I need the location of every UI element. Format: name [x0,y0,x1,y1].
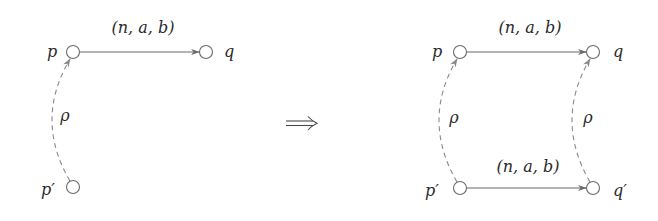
left-rho-label: ρ [59,106,70,125]
right-node-p [454,46,467,59]
right-rho-left-label: ρ [448,108,459,127]
left-node-q [200,46,213,59]
left-node-p-prime [67,181,80,194]
right-label-q-prime: q′ [613,181,627,200]
right-node-q [587,46,600,59]
left-label-p: p [47,42,57,61]
left-edge-label-nab: (n, a, b) [112,18,175,37]
right-label-q: q [613,42,623,61]
left-label-p-prime: p′ [41,180,55,199]
left-node-p [67,46,80,59]
right-edge-label-nab-top: (n, a, b) [499,18,562,37]
right-rho-right-label: ρ [582,108,593,127]
right-edge-label-nab-bottom: (n, a, b) [497,157,560,176]
right-node-q-prime [587,182,600,195]
right-label-p-prime: p′ [425,181,439,200]
right-node-p-prime [454,182,467,195]
right-diagram: (n, a, b) (n, a, b) ρ ρ p q p′ q′ [425,18,627,200]
left-diagram: (n, a, b) ρ p q p′ [41,18,234,199]
diagram-canvas: (n, a, b) ρ p q p′ (n, a, b) (n, a, b) ρ… [0,0,658,221]
implies-arrow-icon [286,117,317,131]
left-label-q: q [224,42,234,61]
right-label-p: p [432,42,442,61]
